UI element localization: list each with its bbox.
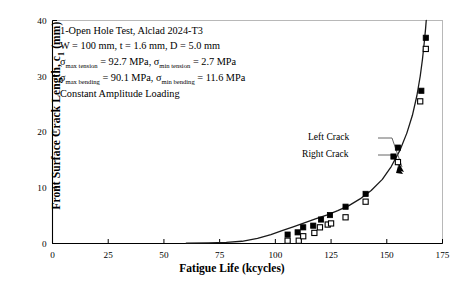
sigma-min-tension-subscript: min tension (159, 62, 190, 69)
sigma-min-bending-subscript: min bending (162, 78, 195, 85)
figure-container: 0255075100125150175 010203040 Front Surf… (0, 0, 464, 291)
sigma-max-tension-subscript: max tension (66, 62, 98, 69)
data-point-left-crack (285, 232, 290, 237)
sigma-max-bending-subscript: max bending (66, 78, 100, 85)
annotation-line-1-text: 1-Open Hole Test, Alclad 2024-T3 (60, 25, 203, 36)
data-point-left-crack (311, 223, 316, 228)
data-point-left-crack (318, 217, 323, 222)
data-point-left-crack (419, 88, 424, 93)
annotation-line-1: 1-Open Hole Test, Alclad 2024-T3 (60, 24, 203, 38)
x-tick-label: 50 (159, 250, 169, 260)
sigma-max-tension-value: = 92.7 MPa, (98, 56, 154, 67)
data-point-left-crack (363, 191, 368, 196)
data-point-left-crack (423, 35, 428, 40)
y-tick-label: 40 (37, 16, 47, 26)
label-right-crack: Right Crack (302, 148, 349, 159)
x-tick-label: 150 (380, 250, 394, 260)
annotation-line-2: W = 100 mm, t = 1.6 mm, D = 5.0 mm (60, 39, 220, 53)
data-point-right-crack (285, 238, 290, 243)
axes-frame (53, 21, 443, 244)
data-point-right-crack (423, 46, 428, 51)
sigma-min-tension-value: = 2.7 MPa (190, 56, 236, 67)
data-point-left-crack (343, 204, 348, 209)
data-point-left-crack (327, 212, 332, 217)
annotation-line-3: σmax tension = 92.7 MPa, σmin tension = … (60, 55, 236, 73)
x-axis-label-text: Fatigue Life (kcycles) (179, 262, 284, 274)
x-tick-label: 0 (50, 250, 55, 260)
annotation-line-5-text: Constant Amplitude Loading (60, 88, 180, 99)
data-point-left-crack (391, 154, 396, 159)
y-tick-label: 20 (37, 127, 47, 137)
sigma-min-bending-value: = 11.6 MPa (195, 72, 246, 83)
data-point-right-crack (301, 234, 306, 239)
y-tick-label: 30 (37, 72, 47, 82)
annotation-line-2-text: W = 100 mm, t = 1.6 mm, D = 5.0 mm (60, 40, 220, 51)
label-right-crack-text: Right Crack (302, 148, 349, 159)
x-tick-label: 75 (215, 250, 225, 260)
x-tick-label: 175 (436, 250, 450, 260)
data-point-left-crack (395, 145, 400, 150)
x-tick-label: 100 (268, 250, 282, 260)
y-tick-label: 10 (37, 183, 47, 193)
data-point-right-crack (317, 225, 322, 230)
x-tick-label: 25 (104, 250, 114, 260)
label-left-crack: Left Crack (308, 131, 349, 142)
data-point-right-crack (418, 99, 423, 104)
x-axis-label: Fatigue Life (kcycles) (0, 262, 464, 274)
data-point-right-crack (363, 199, 368, 204)
label-left-crack-text: Left Crack (308, 131, 349, 142)
annotation-line-4: σmax bending = 90.1 MPa, σmin bending = … (60, 71, 245, 89)
sigma-max-bending-value: = 90.1 MPa, (100, 72, 156, 83)
data-point-right-crack (343, 215, 348, 220)
x-tick-label: 125 (324, 250, 338, 260)
data-point-right-crack (312, 230, 317, 235)
data-point-right-crack (395, 160, 400, 165)
data-point-left-crack (295, 230, 300, 235)
data-point-right-crack (328, 221, 333, 226)
data-point-left-crack (301, 225, 306, 230)
y-tick-label: 0 (42, 239, 47, 249)
annotation-line-5: Constant Amplitude Loading (60, 87, 180, 101)
